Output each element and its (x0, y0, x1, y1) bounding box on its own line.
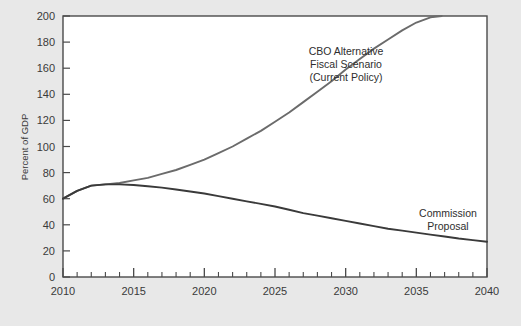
y-tick-label: 60 (43, 193, 55, 205)
annotation-line: Fiscal Scenario (310, 58, 382, 70)
y-tick-label: 200 (37, 10, 55, 22)
plot-area-background (63, 16, 487, 277)
y-tick-label: 160 (37, 62, 55, 74)
y-tick-label: 140 (37, 88, 55, 100)
y-tick-label: 180 (37, 36, 55, 48)
annotation-line: (Current Policy) (310, 71, 383, 83)
commission-annotation: CommissionProposal (419, 207, 477, 232)
y-tick-label: 80 (43, 167, 55, 179)
debt-projection-line-chart: 020406080100120140160180200 201020152020… (0, 0, 521, 326)
y-tick-label: 100 (37, 141, 55, 153)
y-tick-label: 20 (43, 245, 55, 257)
chart-container: 020406080100120140160180200 201020152020… (0, 0, 521, 326)
x-tick-label: 2010 (51, 285, 75, 297)
y-tick-label: 40 (43, 219, 55, 231)
y-axis-title: Percent of GDP (19, 114, 30, 181)
x-tick-label: 2040 (475, 285, 499, 297)
x-tick-label: 2015 (121, 285, 145, 297)
y-tick-label: 120 (37, 114, 55, 126)
x-tick-label: 2035 (404, 285, 428, 297)
x-tick-label: 2020 (192, 285, 216, 297)
annotation-line: CBO Alternative (309, 45, 384, 57)
annotation-line: Proposal (427, 220, 468, 232)
x-tick-label: 2030 (333, 285, 357, 297)
cbo-annotation: CBO AlternativeFiscal Scenario(Current P… (309, 45, 384, 83)
x-tick-label: 2025 (263, 285, 287, 297)
y-tick-label: 0 (49, 271, 55, 283)
annotation-line: Commission (419, 207, 477, 219)
